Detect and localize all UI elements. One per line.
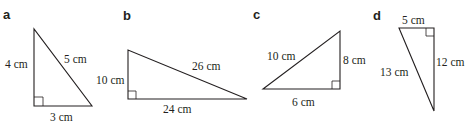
side-label-d-vertical: 12 cm — [436, 56, 464, 68]
side-label-b-horizontal: 24 cm — [163, 103, 191, 115]
side-label-a-horizontal: 3 cm — [50, 111, 73, 123]
triangle-a: a 4 cm 5 cm 3 cm — [3, 7, 92, 123]
side-label-d-hypotenuse: 13 cm — [380, 66, 408, 78]
side-label-a-hypotenuse: 5 cm — [64, 53, 87, 65]
part-label-b: b — [123, 8, 131, 23]
side-label-d-horizontal: 5 cm — [402, 14, 425, 26]
triangle-b-shape — [128, 50, 247, 99]
triangle-b: b 10 cm 26 cm 24 cm — [96, 8, 247, 115]
right-angle-marker-b — [128, 91, 136, 99]
side-label-c-hypotenuse: 10 cm — [267, 50, 295, 62]
side-label-c-horizontal: 6 cm — [292, 96, 315, 108]
side-label-c-vertical: 8 cm — [343, 54, 366, 66]
right-angle-marker-c — [332, 81, 340, 89]
triangle-d: d 5 cm 12 cm 13 cm — [373, 8, 464, 111]
part-label-c: c — [253, 7, 260, 22]
right-triangles-figure: a 4 cm 5 cm 3 cm b 10 cm 26 cm 24 cm c 1… — [0, 0, 472, 123]
side-label-a-vertical: 4 cm — [5, 58, 28, 70]
part-label-a: a — [3, 7, 11, 22]
part-label-d: d — [373, 8, 381, 23]
right-angle-marker-d — [426, 28, 434, 36]
right-angle-marker-a — [34, 97, 43, 106]
triangle-c: c 10 cm 8 cm 6 cm — [253, 7, 366, 108]
side-label-b-hypotenuse: 26 cm — [192, 60, 220, 72]
side-label-b-vertical: 10 cm — [96, 74, 124, 86]
triangle-a-shape — [34, 29, 92, 106]
